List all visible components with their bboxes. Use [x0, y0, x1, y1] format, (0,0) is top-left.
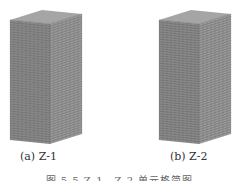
figure-a-mesh [6, 6, 86, 148]
figure-b-mesh [155, 6, 235, 148]
subfigure-label-a: (a) Z-1 [20, 150, 57, 163]
mesh-cube-icon [6, 6, 86, 148]
figure-caption: 图 5.5 Z-1、Z-2 单元格简图 [0, 172, 239, 181]
mesh-cube-icon [155, 6, 235, 148]
subfigure-label-b: (b) Z-2 [170, 150, 207, 163]
